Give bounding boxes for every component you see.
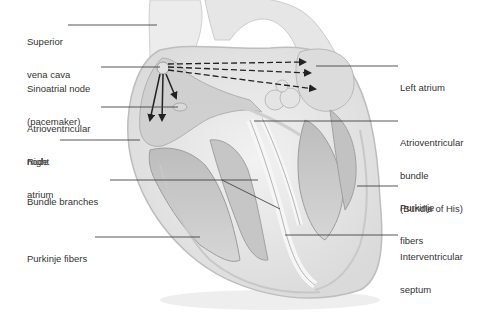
label-left-atrium: Left atrium	[400, 60, 445, 115]
label-interventricular-septum: Interventricular septum	[400, 229, 463, 317]
label-bundle-branches: Bundle branches	[27, 174, 98, 229]
left-atrium-chamber	[296, 49, 354, 111]
sa-node-shape	[157, 62, 169, 74]
heart-conduction-diagram: Superior vena cava Sinoatrial node (pace…	[0, 0, 501, 323]
label-purkinje-fibers-left: Purkinje fibers	[27, 231, 87, 286]
